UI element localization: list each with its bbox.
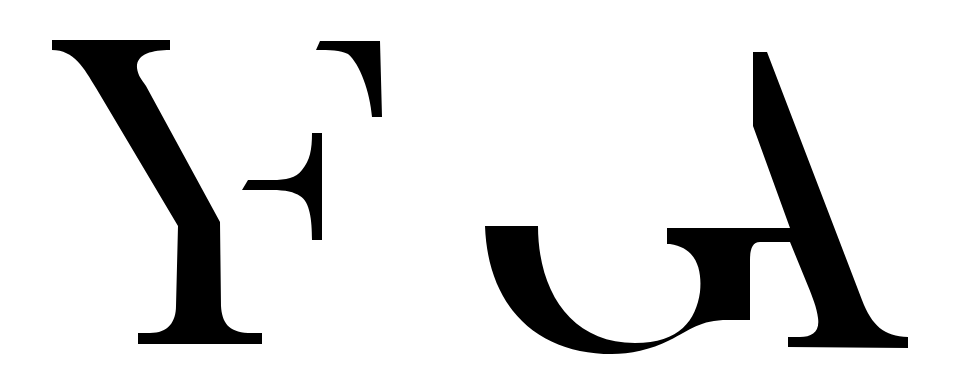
glyph-y-icon: [52, 40, 262, 344]
glyph-a-icon: [753, 52, 908, 348]
glyph-f-middle-icon: [242, 133, 322, 240]
logo-mark-icon: [0, 0, 953, 372]
glyph-f-top-icon: [316, 41, 382, 117]
glyph-g-curve-icon: [485, 226, 790, 354]
